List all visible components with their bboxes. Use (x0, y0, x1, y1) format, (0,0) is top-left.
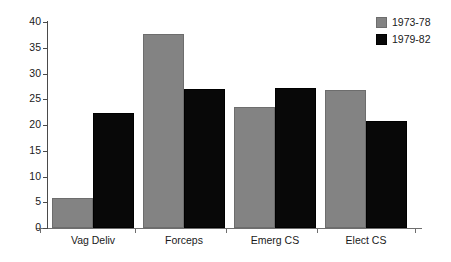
bar-chart: 0510152025303540 Vag DelivForcepsEmerg C… (0, 0, 451, 262)
legend-label: 1973-78 (392, 17, 431, 28)
bar (143, 34, 184, 228)
x-category-label: Forceps (139, 234, 229, 246)
bar (234, 107, 275, 228)
bar (325, 90, 366, 228)
chart-legend: 1973-78 1979-82 (376, 17, 431, 45)
bar (93, 113, 134, 228)
x-category-label: Elect CS (321, 234, 411, 246)
black-square-swatch (376, 34, 387, 45)
bar (52, 198, 93, 228)
legend-item-1979-82: 1979-82 (376, 34, 431, 45)
gray-square-swatch (376, 17, 387, 28)
bar (184, 89, 225, 228)
legend-label: 1979-82 (392, 34, 431, 45)
bar (275, 88, 316, 228)
x-category-label: Vag Deliv (48, 234, 138, 246)
x-category-label: Emerg CS (230, 234, 320, 246)
legend-item-1973-78: 1973-78 (376, 17, 431, 28)
bar (366, 121, 407, 228)
